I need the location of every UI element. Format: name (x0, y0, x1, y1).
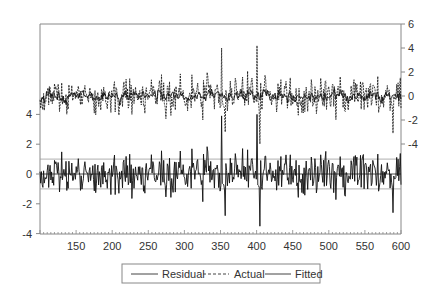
right-tick-label: -4 (408, 138, 418, 150)
residual-actual-fitted-chart: 420-2-4 6420-2-4 15020025030035040045050… (0, 0, 438, 296)
legend-fitted-label: Fitted (295, 268, 323, 280)
right-tick-label: 0 (408, 90, 414, 102)
residual-line (40, 114, 401, 226)
legend-actual-label: Actual (234, 268, 265, 280)
fitted-line (40, 89, 401, 105)
right-tick-label: 4 (408, 42, 414, 54)
right-tick-label: -2 (408, 114, 418, 126)
x-tick-label: 500 (320, 240, 338, 252)
x-tick-label: 350 (211, 240, 229, 252)
left-tick-label: -4 (22, 228, 32, 240)
plot-frame (40, 24, 401, 234)
right-tick-label: 2 (408, 66, 414, 78)
right-axis: 6420-2-4 (401, 18, 418, 150)
left-tick-label: 4 (26, 108, 32, 120)
x-tick-label: 400 (247, 240, 265, 252)
legend: Residual Actual Fitted (122, 264, 323, 283)
series-lines (40, 46, 401, 227)
x-tick-label: 550 (356, 240, 374, 252)
x-axis: 150200250300350400450500550600 (40, 230, 410, 252)
left-tick-label: 0 (26, 168, 32, 180)
left-tick-label: -2 (22, 198, 32, 210)
chart-container: 420-2-4 6420-2-4 15020025030035040045050… (0, 0, 438, 296)
x-tick-label: 300 (175, 240, 193, 252)
left-axis: 420-2-4 (22, 108, 40, 239)
legend-residual-label: Residual (162, 268, 205, 280)
right-tick-label: 6 (408, 18, 414, 30)
x-tick-label: 250 (139, 240, 157, 252)
x-tick-label: 450 (284, 240, 302, 252)
x-tick-label: 200 (103, 240, 121, 252)
x-tick-label: 150 (67, 240, 85, 252)
left-tick-label: 2 (26, 138, 32, 150)
x-tick-label: 600 (392, 240, 410, 252)
